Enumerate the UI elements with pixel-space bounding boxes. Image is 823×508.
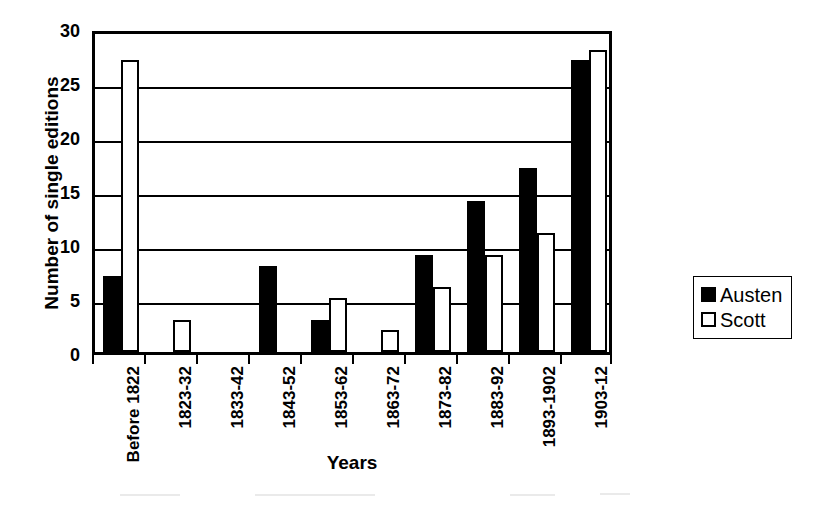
legend-item-scott: Scott [701, 307, 782, 332]
bar-austen-7 [467, 201, 485, 352]
bar-group [511, 34, 563, 352]
scan-artifact [510, 494, 555, 496]
y-axis-tick-label: 30 [28, 22, 80, 40]
x-axis-tick-label: 1903-12 [593, 366, 610, 428]
x-axis-tick-label: 1843-52 [281, 366, 298, 428]
y-axis-tick-label: 0 [28, 346, 80, 364]
x-axis-tick-mark [560, 355, 562, 364]
x-axis-tick-mark [92, 355, 94, 364]
legend-swatch-austen [701, 287, 716, 302]
bar-scott-6 [433, 287, 451, 352]
bar-scott-7 [485, 255, 503, 352]
x-axis-tick-mark [300, 355, 302, 364]
bar-series-container [95, 34, 609, 352]
x-axis-tick-mark [404, 355, 406, 364]
x-axis-title: Years [92, 452, 612, 474]
x-axis-tick-label: 1833-42 [229, 366, 246, 428]
bar-group [303, 34, 355, 352]
x-axis-tick-mark [248, 355, 250, 364]
bar-group [407, 34, 459, 352]
x-axis-tick-mark [456, 355, 458, 364]
legend-label-austen: Austen [720, 285, 782, 305]
chart-legend: Austen Scott [693, 276, 792, 339]
bar-austen-4 [311, 320, 329, 352]
y-axis-tick-label: 25 [28, 76, 80, 94]
bar-austen-9 [571, 60, 589, 352]
bar-group [251, 34, 303, 352]
y-axis-tick-label: 15 [28, 184, 80, 202]
plot-area [92, 31, 612, 355]
legend-label-scott: Scott [720, 310, 766, 330]
legend-item-austen: Austen [701, 282, 782, 307]
y-axis-tick-label: 20 [28, 130, 80, 148]
bar-scott-0 [121, 60, 139, 352]
bar-group [199, 34, 251, 352]
x-axis-tick-label: 1893-1902 [541, 366, 558, 447]
y-axis-tick-labels: 051015202530 [28, 0, 80, 508]
bar-group [95, 34, 147, 352]
x-axis-tick-mark [352, 355, 354, 364]
bar-scott-9 [589, 50, 607, 352]
x-axis-tick-labels: Before 18221823-321833-421843-521853-621… [92, 366, 612, 466]
x-axis-tick-label: 1873-82 [437, 366, 454, 428]
bar-chart-figure: Number of single editions 051015202530 B… [0, 0, 823, 508]
bar-scott-4 [329, 298, 347, 352]
x-axis-tick-label: 1853-62 [333, 366, 350, 428]
x-axis-tick-mark [508, 355, 510, 364]
scan-artifact [255, 494, 375, 496]
legend-swatch-scott [701, 312, 716, 327]
bar-austen-3 [259, 266, 277, 352]
bar-group [459, 34, 511, 352]
x-axis-tick-mark [196, 355, 198, 364]
bar-scott-1 [173, 320, 191, 352]
bar-group [147, 34, 199, 352]
bar-austen-6 [415, 255, 433, 352]
bar-austen-0 [103, 276, 121, 352]
bar-scott-5 [381, 330, 399, 352]
x-axis-tick-label: 1863-72 [385, 366, 402, 428]
bar-austen-8 [519, 168, 537, 352]
x-axis-tick-mark [144, 355, 146, 364]
bar-group [563, 34, 615, 352]
y-axis-tick-label: 10 [28, 238, 80, 256]
y-axis-tick-label: 5 [28, 292, 80, 310]
x-axis-tick-mark [610, 355, 612, 364]
x-axis-tick-label: Before 1822 [125, 366, 142, 462]
x-axis-tick-label: 1823-32 [177, 366, 194, 428]
scan-artifact [120, 494, 180, 496]
x-axis-tick-label: 1883-92 [489, 366, 506, 428]
scan-artifact [600, 493, 630, 495]
bar-scott-8 [537, 233, 555, 352]
bar-group [355, 34, 407, 352]
